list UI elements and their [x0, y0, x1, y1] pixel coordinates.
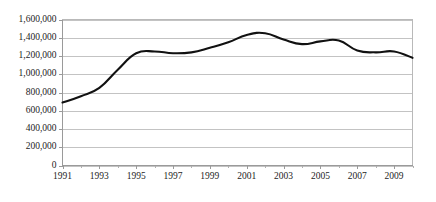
y-tick-label-8: 1,600,000 — [19, 14, 57, 24]
x-tick-label-4: 1999 — [200, 171, 219, 181]
data-series-line — [63, 33, 413, 103]
x-tick-label-8: 2007 — [348, 171, 367, 181]
x-tick-label-3: 1997 — [164, 171, 183, 181]
y-tick-label-4: 800,000 — [26, 87, 57, 97]
line-chart: 0200,000400,000600,000800,0001,000,0001,… — [0, 0, 436, 202]
series-line-path — [63, 33, 413, 103]
y-tick-label-0: 0 — [52, 160, 57, 170]
y-tick-label-5: 1,000,000 — [19, 68, 57, 78]
x-tick-label-6: 2003 — [274, 171, 293, 181]
x-tick-label-7: 2005 — [311, 171, 330, 181]
x-tick-label-5: 2001 — [237, 171, 256, 181]
y-tick-label-6: 1,200,000 — [19, 50, 57, 60]
y-tick-label-2: 400,000 — [26, 123, 57, 133]
plot-area-border — [63, 20, 413, 166]
y-tick-label-7: 1,400,000 — [19, 32, 57, 42]
x-tick-label-0: 1991 — [53, 171, 72, 181]
y-axis-tick-labels: 0200,000400,000600,000800,0001,000,0001,… — [19, 14, 57, 170]
y-tick-label-1: 200,000 — [26, 141, 57, 151]
plot-frame — [63, 20, 413, 166]
y-tick-label-3: 600,000 — [26, 105, 57, 115]
chart-canvas: 0200,000400,000600,000800,0001,000,0001,… — [0, 0, 436, 202]
x-tick-label-9: 2009 — [385, 171, 404, 181]
y-axis-ticks — [59, 21, 63, 167]
gridlines — [63, 21, 413, 167]
x-axis-tick-labels: 1991199319951997199920012003200520072009 — [53, 171, 404, 181]
x-tick-label-1: 1993 — [90, 171, 109, 181]
x-tick-label-2: 1995 — [127, 171, 146, 181]
